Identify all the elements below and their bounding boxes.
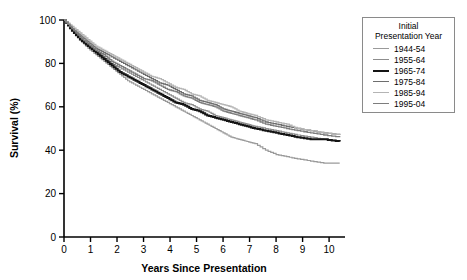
survival-curve-1965-74 (64, 20, 340, 142)
legend: Initial Presentation Year 1944-541955-64… (362, 17, 455, 113)
x-tick-label: 2 (114, 244, 120, 255)
x-tick-label: 10 (324, 244, 336, 255)
survival-curve-1985-94 (64, 20, 340, 135)
legend-label: 1995-04 (394, 99, 425, 109)
y-tick-group: 020406080100 (39, 15, 64, 243)
legend-label: 1955-64 (394, 55, 425, 65)
x-axis-title: Years Since Presentation (141, 262, 266, 274)
y-tick-label: 20 (45, 188, 57, 199)
x-tick-group: 012345678910 (61, 237, 335, 255)
y-axis-title: Survival (%) (8, 98, 20, 158)
x-tick-label: 9 (300, 244, 306, 255)
x-tick-label: 7 (247, 244, 253, 255)
legend-swatch-line (373, 59, 389, 60)
y-tick-label: 80 (45, 58, 57, 69)
legend-row: 1995-04 (367, 98, 450, 109)
survival-curve-1975-84 (64, 20, 340, 135)
legend-title-line1: Initial (367, 21, 450, 31)
legend-swatch-line (373, 103, 389, 104)
legend-title-line2: Presentation Year (367, 31, 450, 41)
legend-row: 1955-64 (367, 54, 450, 65)
survival-curve-1955-64 (64, 20, 340, 142)
x-tick-label: 4 (167, 244, 173, 255)
legend-swatch-line (373, 70, 389, 72)
legend-swatch-line (373, 48, 389, 49)
survival-curve-1995-04 (64, 20, 340, 137)
x-tick-label: 6 (220, 244, 226, 255)
survival-curve-1944-54 (64, 20, 340, 163)
legend-row: 1965-74 (367, 65, 450, 76)
x-tick-label: 0 (61, 244, 67, 255)
legend-label: 1965-74 (394, 66, 425, 76)
legend-label: 1944-54 (394, 44, 425, 54)
y-tick-label: 40 (45, 145, 57, 156)
legend-row: 1944-54 (367, 43, 450, 54)
x-tick-label: 5 (194, 244, 200, 255)
x-tick-label: 8 (273, 244, 279, 255)
x-tick-label: 3 (141, 244, 147, 255)
survival-curves-group (64, 20, 340, 163)
x-tick-label: 1 (88, 244, 94, 255)
legend-row: 1975-84 (367, 76, 450, 87)
legend-label: 1975-84 (394, 77, 425, 87)
legend-label: 1985-94 (394, 88, 425, 98)
survival-chart-figure: 020406080100 012345678910 Years Since Pr… (0, 0, 467, 280)
legend-swatch-line (373, 81, 389, 82)
legend-row: 1985-94 (367, 87, 450, 98)
y-tick-label: 0 (50, 232, 56, 243)
y-tick-label: 100 (39, 15, 56, 26)
y-tick-label: 60 (45, 101, 57, 112)
legend-swatch-line (373, 92, 389, 93)
legend-entries: 1944-541955-641965-741975-841985-941995-… (367, 43, 450, 109)
